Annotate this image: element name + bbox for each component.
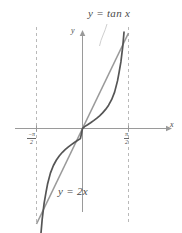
x-axis-label: x (170, 121, 174, 129)
y-axis-label: y (71, 27, 75, 35)
tick-left-numerator: −π (27, 131, 36, 137)
y-axis-arrow (80, 30, 86, 36)
tick-right-denominator: 2 (124, 139, 129, 145)
line-curve-label: y = 2x (58, 186, 88, 197)
tick-left-denominator: 2 (27, 139, 36, 145)
x-tick-label-minus-pi-over-2: −π 2 (27, 131, 36, 145)
figure-container: y = tan x y = 2x x y −π 2 π 2 (0, 0, 182, 233)
tick-right-numerator: π (124, 131, 129, 137)
tan-curve-label: y = tan x (88, 8, 130, 19)
plot-canvas (0, 0, 182, 233)
x-tick-label-pi-over-2: π 2 (124, 131, 129, 145)
callout-leader-line (100, 24, 108, 46)
